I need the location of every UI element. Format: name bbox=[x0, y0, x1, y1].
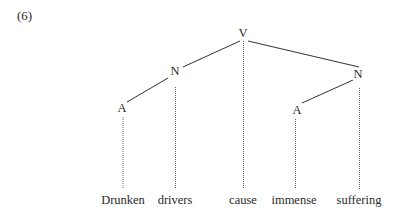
node-n-left: N bbox=[170, 64, 179, 78]
branch-n-a-left bbox=[127, 78, 168, 102]
branch-n-a-right bbox=[302, 80, 353, 103]
word-suffering: suffering bbox=[337, 193, 382, 207]
terminal-links bbox=[123, 41, 360, 189]
branch-v-n-right bbox=[248, 41, 359, 67]
branch-v-n-left bbox=[183, 41, 240, 67]
node-v: V bbox=[238, 26, 247, 40]
word-drunken: Drunken bbox=[101, 193, 145, 207]
node-a-right: A bbox=[292, 103, 301, 117]
word-drivers: drivers bbox=[158, 193, 193, 207]
node-a-left: A bbox=[117, 101, 126, 115]
word-cause: cause bbox=[229, 193, 257, 207]
node-n-right: N bbox=[353, 67, 362, 81]
word-immense: immense bbox=[271, 193, 316, 207]
syntax-tree bbox=[0, 0, 402, 218]
